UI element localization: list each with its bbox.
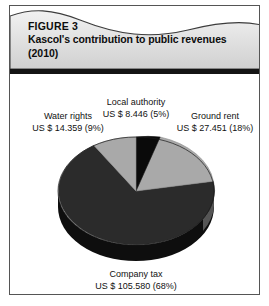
pie-label-company-tax-line2: US $ 105.580 (68%) <box>72 281 200 293</box>
figure-card: FIGURE 3 Kascol's contribution to public… <box>9 5 260 295</box>
figure-header-text: FIGURE 3 Kascol's contribution to public… <box>28 20 243 60</box>
pie-label-company-tax-line1: Company tax <box>72 269 200 281</box>
pie-label-water-rights-line2: US $ 14.359 (9%) <box>16 123 120 135</box>
figure-year: (2010) <box>28 47 243 60</box>
figure-header-band: FIGURE 3 Kascol's contribution to public… <box>10 6 260 79</box>
pie-chart-area: Water rights US $ 14.359 (9%) Local auth… <box>10 79 260 295</box>
figure-title: Kascol's contribution to public revenues <box>28 33 243 46</box>
figure-label: FIGURE 3 <box>28 20 243 33</box>
pie-label-company-tax: Company tax US $ 105.580 (68%) <box>72 269 200 292</box>
pie-label-local-authority-line1: Local authority <box>88 97 184 109</box>
pie-label-ground-rent-line1: Ground rent <box>168 111 260 123</box>
pie-label-ground-rent-line2: US $ 27.451 (18%) <box>168 123 260 135</box>
pie-label-ground-rent: Ground rent US $ 27.451 (18%) <box>168 111 260 134</box>
